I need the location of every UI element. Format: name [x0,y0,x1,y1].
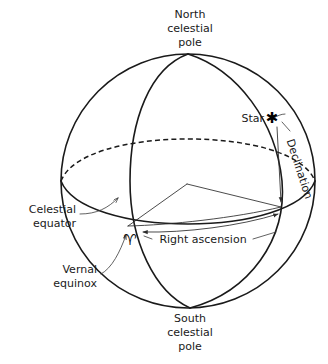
north-celestial-pole-label-line2: celestial [167,22,213,35]
celestial-sphere-diagram: ✱ ♈ North celestial pole South celestial… [0,0,328,364]
vernal-equinox-meridian [130,54,190,308]
star-marker-icon: ✱ [266,109,279,127]
declination-leader [282,122,290,131]
south-celestial-pole-label-line2: celestial [167,326,213,339]
aries-symbol-icon: ♈ [123,231,136,249]
radius-to-vernal-equinox [128,184,187,226]
vernal-equinox-label-line2: equinox [53,277,97,290]
celestial-equator-label-line1: Celestial [29,203,76,216]
sphere-outline [61,54,315,308]
celestial-equator-front-arc [61,181,315,224]
south-celestial-pole-label-line1: South [174,312,206,325]
right-ascension-label: Right ascension [159,233,246,246]
south-celestial-pole-label-line3: pole [178,340,202,353]
vernal-equinox-leader [101,235,126,274]
declination-measure-line [277,127,281,202]
right-ascension-label-leader-left [144,236,152,239]
north-celestial-pole-label-line1: North [175,8,206,21]
north-celestial-pole-label-line3: pole [178,36,202,49]
celestial-sphere-figure: ✱ ♈ North celestial pole South celestial… [0,0,328,364]
celestial-equator-back-arc [61,139,315,181]
star-hour-circle [188,54,282,308]
celestial-equator-leader [80,198,118,214]
celestial-equator-label-line2: equator [33,217,77,230]
radius-to-star-foot [187,184,281,207]
star-label: Star [241,112,264,125]
vernal-equinox-label-line1: Vernal [62,263,97,276]
